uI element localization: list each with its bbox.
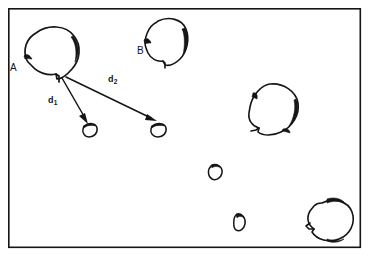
shape-right-mid-group [249, 84, 298, 135]
shape-b-group [144, 19, 188, 68]
vector-label-d1: d1 [48, 96, 57, 105]
point-label-a: A [10, 63, 17, 73]
vector-label-d2-base: d [108, 74, 114, 84]
shape-small-center-cap [211, 164, 221, 168]
shape-small-center-group [208, 164, 222, 179]
vector-label-d1-sub: 1 [54, 99, 58, 106]
figure-drawing [0, 0, 369, 257]
vector-label-d1-base: d [48, 95, 54, 105]
shape-small-d1-group [83, 124, 97, 137]
vector-d2-arrowhead [145, 114, 157, 121]
point-label-b: B [137, 46, 144, 56]
shape-small-lower-group [234, 214, 245, 231]
shape-b-outline [145, 19, 188, 66]
shape-small-lower-cap [236, 214, 244, 218]
vector-label-d2: d2 [108, 75, 117, 84]
shape-b-left-ear [144, 39, 151, 44]
shape-right-mid-lower-ear [282, 129, 290, 133]
figure-canvas: A B d1 d2 [0, 0, 369, 257]
shape-right-mid-outline [249, 84, 298, 135]
shape-a-outline [25, 27, 79, 79]
vector-label-d2-sub: 2 [114, 78, 118, 85]
shape-b-right-shade [182, 28, 187, 55]
shape-bottom-right-outline [308, 200, 353, 241]
shape-a-group [24, 27, 79, 82]
shape-small-d2-group [151, 124, 166, 137]
vector-d1-arrowhead [79, 113, 88, 124]
shape-bottom-right-group [306, 198, 353, 242]
shape-a-left-ear [24, 55, 32, 59]
